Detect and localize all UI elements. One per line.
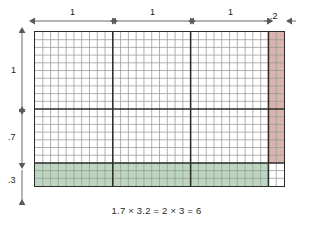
top-label-unit-1: 1	[70, 8, 75, 17]
top-label-unit-3: 1	[228, 8, 233, 17]
left-label-point-three: .3	[8, 176, 16, 185]
left-label-point-seven: .7	[8, 133, 16, 142]
top-label-fraction: .2	[270, 12, 278, 21]
measure-arrows	[0, 0, 313, 229]
left-label-one: 1	[11, 66, 16, 75]
equation-caption: 1.7 × 3.2 = 2 × 3 = 6	[0, 205, 313, 216]
top-label-unit-2: 1	[150, 8, 155, 17]
figure-canvas: 1 1 1 .2 1 .7 .3 1.7 × 3.2 = 2 × 3 = 6	[0, 0, 313, 229]
